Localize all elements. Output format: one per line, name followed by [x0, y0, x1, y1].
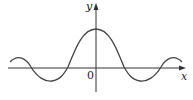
origin-label: 0	[87, 69, 94, 82]
y-axis-arrow-icon	[94, 3, 99, 10]
graph: y x 0	[0, 0, 193, 100]
y-axis-label: y	[85, 0, 93, 13]
x-axis-label: x	[181, 70, 188, 83]
